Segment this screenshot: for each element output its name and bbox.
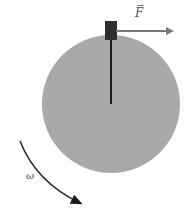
block-on-rim xyxy=(105,21,117,40)
omega-label: ω xyxy=(26,170,34,181)
vector-arrow-accent: → xyxy=(137,1,144,10)
force-label: → F xyxy=(135,6,143,20)
